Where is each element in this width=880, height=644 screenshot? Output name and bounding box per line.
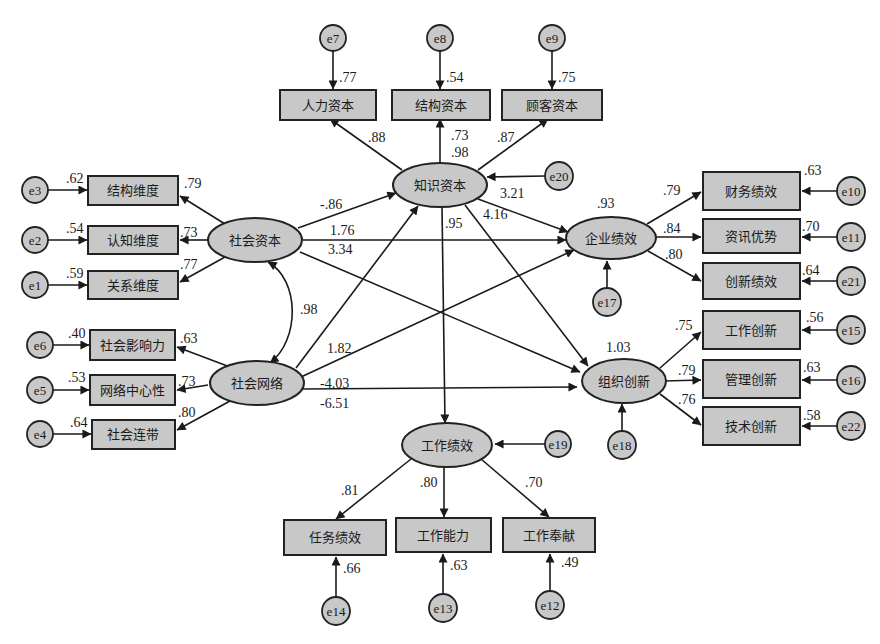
loading-ties: .80 (178, 405, 196, 420)
svg-text:社会资本: 社会资本 (229, 233, 281, 248)
svg-text:e2: e2 (29, 233, 41, 248)
loading-financial: .79 (663, 183, 681, 198)
error-e15: e15 (837, 316, 865, 344)
svg-text:人力资本: 人力资本 (302, 98, 354, 113)
latent-org-innovation: 组织创新 (582, 359, 666, 403)
box-work-ability: 工作能力 (396, 518, 491, 552)
svg-text:技术创新: 技术创新 (725, 419, 777, 434)
svg-text:e4: e4 (34, 427, 47, 442)
r2-centrality: .53 (68, 370, 86, 385)
loading-techinnov: .76 (678, 392, 696, 407)
svg-text:e21: e21 (842, 274, 861, 289)
box-structural-dimension: 结构维度 (88, 176, 178, 205)
svg-text:e13: e13 (434, 601, 453, 616)
svg-text:工作奉献: 工作奉献 (523, 528, 575, 543)
coef-sc-oi: 3.34 (328, 242, 353, 257)
error-e13: e13 (429, 594, 457, 622)
r2-reldim: .59 (66, 266, 84, 281)
box-human-capital: 人力资本 (280, 90, 376, 120)
svg-text:企业绩效: 企业绩效 (585, 231, 637, 246)
svg-text:e1: e1 (29, 278, 41, 293)
box-customer-capital: 顾客资本 (502, 90, 602, 120)
work-performance-indicators: .81 .80 .70 任务绩效 工作能力 工作奉献 .66 .63 .49 e… (284, 475, 595, 625)
r2-task: .66 (343, 561, 361, 576)
edge-sc-structdim (180, 196, 225, 224)
edge-e20 (487, 176, 546, 177)
svg-text:组织创新: 组织创新 (598, 374, 650, 389)
error-e20: e20 (545, 162, 573, 190)
svg-text:e16: e16 (842, 373, 861, 388)
loading-structdim: .79 (184, 176, 202, 191)
r2-customer: .75 (558, 70, 576, 85)
coef-sc-kc: -.86 (320, 197, 342, 212)
error-e22: e22 (837, 412, 865, 440)
latent-social-capital: 社会资本 (208, 218, 302, 262)
svg-text:e8: e8 (434, 31, 446, 46)
loading-info: .84 (663, 221, 681, 236)
coef-sn-oi: -6.51 (320, 396, 349, 411)
svg-text:工作能力: 工作能力 (417, 528, 469, 543)
box-relational-dimension: 关系维度 (88, 271, 178, 299)
error-e10: e10 (837, 177, 865, 205)
svg-text:e22: e22 (842, 419, 861, 434)
box-social-influence: 社会影响力 (90, 330, 175, 360)
r2-dedication: .49 (561, 555, 579, 570)
error-e21: e21 (837, 267, 865, 295)
svg-text:资讯优势: 资讯优势 (725, 229, 777, 244)
loading-workinnov: .75 (675, 318, 693, 333)
error-e9: e9 (539, 25, 565, 51)
coef-sc-fp: 1.76 (330, 223, 355, 238)
svg-text:认知维度: 认知维度 (107, 233, 159, 248)
error-e19: e19 (545, 431, 571, 457)
edge-sn-influence (177, 347, 230, 367)
loading-dedication: .70 (525, 475, 543, 490)
sem-diagram: e7 e8 e9 .77 .54 .75 人力资本 结构资本 顾客资本 .88 … (0, 0, 880, 644)
svg-text:创新绩效: 创新绩效 (725, 274, 777, 289)
r2-structural: .54 (446, 70, 464, 85)
error-e3: e3 (22, 177, 48, 203)
svg-text:知识资本: 知识资本 (414, 178, 466, 193)
loading-reldim: .77 (180, 257, 198, 272)
svg-text:e12: e12 (541, 598, 560, 613)
firm-performance-indicators: .79 .84 .80 财务绩效 资讯优势 创新绩效 .63 .70 .64 e… (663, 163, 865, 299)
error-e16: e16 (837, 366, 865, 394)
svg-text:网络中心性: 网络中心性 (100, 383, 165, 398)
r2-influence: .40 (68, 326, 86, 341)
loading-human: .88 (368, 130, 386, 145)
r2-innovperf: .64 (802, 263, 820, 278)
svg-text:e3: e3 (29, 183, 41, 198)
edge-kc-human (330, 119, 402, 170)
box-mgmt-innovation: 管理创新 (703, 360, 800, 398)
loading-cogdim: .73 (180, 225, 198, 240)
r2-org-innovation: 1.03 (606, 340, 631, 355)
edge-oi-mgmt (664, 380, 701, 381)
error-e12: e12 (536, 591, 564, 619)
r2-knowledge-capital: .98 (451, 145, 469, 160)
path-labels: -.86 1.76 3.34 .98 1.82 -4.03 -6.51 3.21… (300, 186, 631, 411)
box-social-ties: 社会连带 (92, 420, 175, 449)
loading-structural: .73 (451, 128, 469, 143)
coef-covariance: .98 (300, 302, 318, 317)
box-structural-capital: 结构资本 (392, 90, 490, 120)
box-cognitive-dimension: 认知维度 (88, 226, 178, 254)
error-e5: e5 (27, 377, 53, 403)
edge-sn-kc (296, 206, 418, 368)
r2-structdim: .62 (66, 171, 84, 186)
svg-text:e20: e20 (550, 169, 569, 184)
error-e11: e11 (837, 223, 865, 251)
svg-text:e5: e5 (34, 383, 46, 398)
svg-text:e6: e6 (34, 338, 47, 353)
coef-kc-oi: 4.16 (483, 207, 508, 222)
error-e2: e2 (22, 227, 48, 253)
box-work-innovation: 工作创新 (703, 311, 800, 349)
svg-text:工作创新: 工作创新 (725, 323, 777, 338)
latent-work-performance: 工作绩效 (402, 423, 492, 467)
box-work-dedication: 工作奉献 (503, 518, 595, 552)
svg-text:e11: e11 (842, 230, 860, 245)
svg-text:e10: e10 (842, 184, 861, 199)
latent-social-network: 社会网络 (210, 361, 304, 405)
social-network-indicators: e6 e5 e4 .40 .53 .64 社会影响力 网络中心性 社会连带 .6… (27, 326, 198, 449)
error-e8: e8 (427, 25, 453, 51)
r2-human: .77 (339, 70, 357, 85)
box-financial-performance: 财务绩效 (703, 172, 800, 210)
